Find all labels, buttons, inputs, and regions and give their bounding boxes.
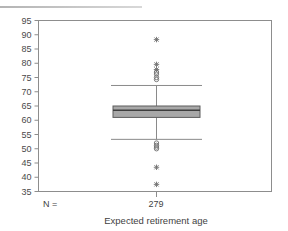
y-axis-tick-label: 60 xyxy=(21,115,31,125)
outlier-extreme-star xyxy=(154,182,159,187)
y-axis-tick-label: 40 xyxy=(21,172,31,182)
y-axis-tick-label: 75 xyxy=(21,73,31,83)
outlier-extreme-star xyxy=(154,67,159,72)
y-axis-tick-group xyxy=(35,21,39,192)
y-axis-tick-label: 55 xyxy=(21,130,31,140)
boxplot-canvas: 35404550556065707580859095 N = 279 Expec… xyxy=(0,0,288,231)
boxplot-figure: 35404550556065707580859095 N = 279 Expec… xyxy=(0,0,288,231)
y-axis-tick-label: 80 xyxy=(21,58,31,68)
x-axis-title: Expected retirement age xyxy=(104,215,208,226)
outlier-extreme-star xyxy=(154,165,159,170)
y-axis-tick-label: 65 xyxy=(21,101,31,111)
outlier-extreme-star xyxy=(154,62,159,67)
outlier-extreme-star xyxy=(154,37,159,42)
y-axis-tick-label: 50 xyxy=(21,144,31,154)
n-value: 279 xyxy=(148,199,163,209)
y-axis-label-group: 35404550556065707580859095 xyxy=(21,16,31,197)
n-label: N = xyxy=(43,199,57,209)
y-axis-tick-label: 90 xyxy=(21,30,31,40)
y-axis-tick-label: 95 xyxy=(21,16,31,26)
y-axis-tick-label: 70 xyxy=(21,87,31,97)
box-group xyxy=(111,85,202,139)
y-axis-tick-label: 85 xyxy=(21,44,31,54)
y-axis-tick-label: 35 xyxy=(21,187,31,197)
box-iqr xyxy=(113,106,200,117)
y-axis-tick-label: 45 xyxy=(21,158,31,168)
